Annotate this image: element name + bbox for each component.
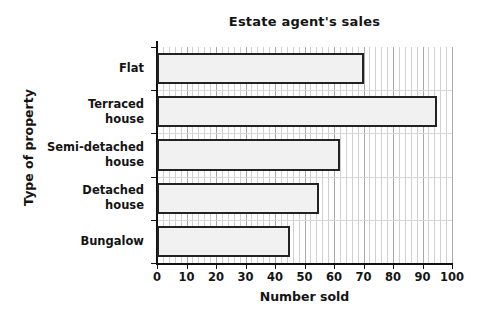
gridline-major-vertical	[364, 47, 365, 263]
x-axis-tick-label: 90	[414, 270, 430, 284]
x-axis-tick	[275, 263, 276, 269]
category-label: Bungalow	[22, 234, 144, 249]
gridline-minor-vertical	[387, 47, 388, 263]
x-axis-tick	[423, 263, 424, 269]
gridline-major-vertical	[423, 47, 424, 263]
x-axis-tick	[393, 263, 394, 269]
x-axis-tick-label: 10	[178, 270, 194, 284]
gridline-minor-vertical	[446, 47, 447, 263]
category-label: Semi-detached house	[22, 140, 144, 170]
y-axis-tick	[151, 47, 157, 48]
bar-chart: Estate agent's sales 0102030405060708090…	[0, 0, 487, 323]
bar	[157, 226, 290, 257]
x-axis-tick-label: 20	[208, 270, 224, 284]
gridline-horizontal	[157, 177, 452, 178]
chart-title: Estate agent's sales	[157, 14, 452, 29]
y-axis-tick	[151, 177, 157, 178]
gridline-minor-vertical	[417, 47, 418, 263]
x-axis-tick	[246, 263, 247, 269]
x-axis-tick	[364, 263, 365, 269]
category-label: Flat	[22, 61, 144, 76]
x-axis-tick-label: 100	[440, 270, 464, 284]
x-axis-tick-label: 70	[355, 270, 371, 284]
x-axis-tick	[334, 263, 335, 269]
bar	[157, 53, 364, 84]
x-axis-title: Number sold	[157, 289, 452, 304]
gridline-minor-vertical	[381, 47, 382, 263]
x-axis-tick	[216, 263, 217, 269]
gridline-major-vertical	[393, 47, 394, 263]
gridline-major-vertical	[452, 47, 453, 263]
gridline-minor-vertical	[440, 47, 441, 263]
x-axis-tick-label: 60	[326, 270, 342, 284]
y-axis-tick	[151, 90, 157, 91]
x-axis-tick-label: 0	[153, 270, 161, 284]
x-axis-tick-label: 30	[237, 270, 253, 284]
bar	[157, 96, 437, 127]
x-axis-tick-label: 50	[296, 270, 312, 284]
gridline-horizontal	[157, 90, 452, 91]
x-axis-tick	[157, 263, 158, 269]
y-axis-tick	[151, 133, 157, 134]
gridline-minor-vertical	[399, 47, 400, 263]
bar	[157, 139, 340, 170]
gridline-minor-vertical	[434, 47, 435, 263]
bar	[157, 183, 319, 214]
x-axis-tick	[187, 263, 188, 269]
gridline-minor-vertical	[411, 47, 412, 263]
y-axis-tick	[151, 220, 157, 221]
gridline-minor-vertical	[405, 47, 406, 263]
gridline-minor-vertical	[369, 47, 370, 263]
category-label: Detached house	[22, 183, 144, 213]
gridline-minor-vertical	[375, 47, 376, 263]
y-axis-title: Type of property	[21, 58, 36, 238]
x-axis-tick	[452, 263, 453, 269]
y-axis-tick	[151, 263, 157, 264]
category-label: Terraced house	[22, 97, 144, 127]
gridline-horizontal	[157, 220, 452, 221]
gridline-minor-vertical	[428, 47, 429, 263]
x-axis-tick-label: 40	[267, 270, 283, 284]
x-axis-tick	[305, 263, 306, 269]
gridline-horizontal	[157, 133, 452, 134]
x-axis-tick-label: 80	[385, 270, 401, 284]
